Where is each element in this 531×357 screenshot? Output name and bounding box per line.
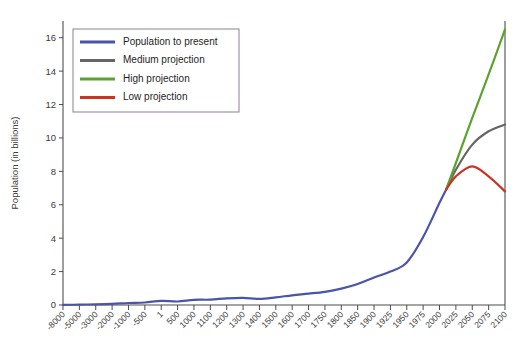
x-tick-label: 1800 [325, 309, 346, 330]
x-tick-label: 1925 [374, 309, 395, 330]
x-tick-label: 1700 [292, 309, 313, 330]
y-tick-label: 6 [51, 199, 56, 210]
legend-label: High projection [123, 73, 190, 84]
x-tick-label: 1500 [259, 309, 280, 330]
population-chart: 0246810121416 -8000-5000-3000-2000-1000-… [0, 0, 531, 357]
x-tick-label: 1900 [358, 309, 379, 330]
x-tick-label: 2025 [439, 309, 460, 330]
y-tick-label: 16 [45, 32, 56, 43]
x-tick-label: 1100 [194, 309, 214, 329]
y-tick-label: 4 [51, 233, 56, 244]
chart-canvas: 0246810121416 -8000-5000-3000-2000-1000-… [0, 0, 531, 357]
x-tick-label: 1750 [308, 309, 329, 330]
y-tick-label: 12 [45, 99, 56, 110]
chart-legend[interactable]: Population to presentMedium projectionHi… [73, 29, 239, 112]
y-axis-label: Population (in billions) [9, 117, 20, 210]
x-tick-label: 1400 [243, 309, 264, 330]
x-tick-label: 2100 [488, 309, 509, 330]
y-tick-label: 14 [45, 66, 56, 77]
y-tick-label: 0 [51, 299, 56, 310]
x-tick-label: 2000 [423, 309, 444, 330]
series-line-population-to-present [63, 190, 446, 305]
y-axis: 0246810121416 [45, 32, 63, 310]
legend-label: Medium projection [123, 54, 205, 65]
x-tick-label: 1 [155, 309, 166, 320]
x-tick-label: 2075 [472, 309, 493, 330]
x-tick-label: 1600 [276, 309, 297, 330]
x-tick-label: 1950 [390, 309, 411, 330]
legend-label: Population to present [123, 36, 218, 47]
x-tick-label: 1200 [210, 309, 231, 330]
x-tick-label: 1000 [177, 309, 198, 330]
series-line-high-projection [446, 29, 505, 189]
y-tick-label: 10 [45, 132, 56, 143]
y-axis-title: Population (in billions) [9, 117, 20, 210]
x-tick-label: 2050 [456, 309, 477, 330]
x-axis: -8000-5000-3000-2000-1000-50015001000110… [44, 305, 509, 332]
x-tick-label: 1975 [407, 309, 428, 330]
y-tick-label: 8 [51, 166, 56, 177]
y-tick-label: 2 [51, 266, 56, 277]
legend-label: Low projection [123, 91, 187, 102]
x-tick-label: -500 [130, 309, 149, 328]
x-tick-label: 1850 [341, 309, 362, 330]
x-tick-label: 1300 [227, 309, 248, 330]
series-line-medium-projection [446, 125, 505, 190]
